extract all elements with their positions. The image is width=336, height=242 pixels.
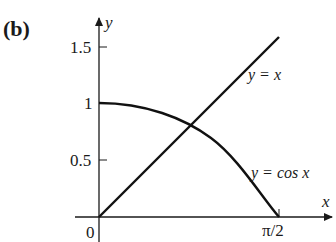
chart: (b) y x 1.5 1 0.5 0 π/2 y = x y = cos x: [0, 0, 336, 242]
x-tick-label-pi2: π/2: [262, 221, 284, 240]
x-axis-label: x: [321, 192, 330, 211]
series-y-equals-x: [99, 37, 279, 217]
x-tick-label-0: 0: [86, 223, 95, 242]
y-tick-label-1: 1: [84, 94, 93, 113]
y-axis-label: y: [103, 13, 113, 32]
annotation-y-equals-x: y = x: [246, 66, 281, 84]
panel-label: (b): [3, 16, 30, 41]
annotation-y-equals-cos-x: y = cos x: [249, 164, 309, 182]
y-tick-label-1.5: 1.5: [70, 38, 91, 57]
series-y-equals-cos-x: [99, 103, 279, 217]
y-tick-label-0.5: 0.5: [70, 151, 91, 170]
